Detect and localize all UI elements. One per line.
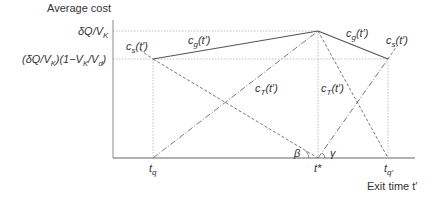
cs-right-label: cs(t′) [386,34,408,49]
ct-right-label: cT(t′) [321,82,344,97]
x-tick-tstar: t* [314,162,322,174]
y-axis-label: Average cost [47,2,111,14]
beta-label: β [293,147,301,159]
cg-left-label: cg(t′) [188,34,211,49]
cg-left-segment [153,31,318,59]
ct-left-label: cT(t′) [255,82,278,97]
cs-curve [140,31,397,158]
average-cost-diagram: Average cost δQ/VK (δQ/VK)(1−VK/Vd) cs(t… [0,0,435,200]
ct-left-ascending [153,31,318,158]
y-tick-upper: δQ/VK [78,25,109,40]
x-axis-label: Exit time t′ [367,180,417,192]
x-tick-tq: tq [149,162,157,177]
cs-left-label: cs(t′) [126,40,148,55]
y-tick-lower: (δQ/VK)(1−VK/Vd) [22,53,107,68]
cg-right-label: cg(t′) [346,27,369,42]
ct-left-descending [153,59,318,158]
x-tick-tq-prime: tq′ [384,162,394,177]
ct-right-ascending [318,59,388,158]
guide-lines [113,31,388,158]
